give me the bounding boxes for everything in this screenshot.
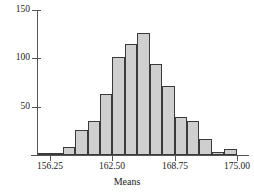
x-axis-title: Means <box>0 176 254 187</box>
x-axis-tick-label: 162.50 <box>99 161 125 171</box>
histogram-chart: 50100150 156.25162.50168.75175.00 Means <box>0 0 254 194</box>
x-axis-tick-label: 175.00 <box>224 161 250 171</box>
x-ticks-layer: 156.25162.50168.75175.00 <box>0 0 254 194</box>
x-axis-tick-label: 156.25 <box>37 161 63 171</box>
x-axis-tick-label: 168.75 <box>162 161 188 171</box>
